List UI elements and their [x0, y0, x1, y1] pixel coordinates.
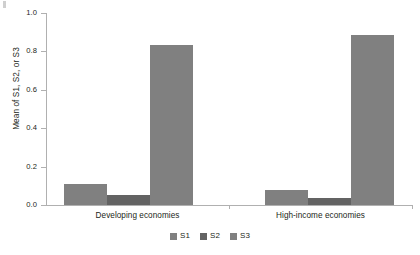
- y-tick-label-0: 0.0: [1, 201, 37, 209]
- y-tick-mark-0: [41, 205, 46, 206]
- bar-developing-s1: [64, 184, 107, 205]
- y-tick-label-2: 0.4: [1, 124, 37, 132]
- y-tick-label-5: 1.0: [1, 9, 37, 17]
- bar-highincome-s2: [308, 198, 351, 205]
- legend-item-s1: S1: [170, 232, 190, 240]
- x-tick-mark-right: [412, 205, 413, 209]
- bar-chart-figure: Mean of S1, S2, or S3 0.0 0.2 0.4 0.6 0.…: [0, 0, 420, 255]
- x-group-label-developing: Developing economies: [46, 211, 229, 220]
- bar-developing-s2: [107, 195, 150, 205]
- x-group-label-high-income: High-income economies: [229, 211, 412, 220]
- bar-highincome-s3: [351, 35, 394, 205]
- bar-highincome-s1: [265, 190, 308, 205]
- legend-swatch-s3-icon: [230, 233, 237, 240]
- y-tick-label-4: 0.8: [1, 47, 37, 55]
- bar-developing-s3: [150, 45, 193, 205]
- legend-item-s3: S3: [230, 232, 250, 240]
- legend-swatch-s2-icon: [200, 233, 207, 240]
- legend-label-s1: S1: [180, 232, 190, 240]
- legend-label-s2: S2: [210, 232, 220, 240]
- corner-artifact-mark: [3, 1, 6, 8]
- y-tick-label-1: 0.2: [1, 163, 37, 171]
- legend-item-s2: S2: [200, 232, 220, 240]
- plot-area: [46, 13, 413, 205]
- y-tick-label-3: 0.6: [1, 86, 37, 94]
- x-tick-mark-center: [229, 205, 230, 209]
- chart-legend: S1 S2 S3: [0, 232, 420, 240]
- legend-label-s3: S3: [240, 232, 250, 240]
- legend-swatch-s1-icon: [170, 233, 177, 240]
